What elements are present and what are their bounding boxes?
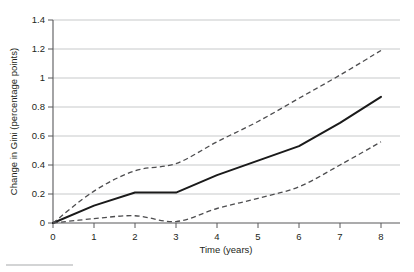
y-tick-label-0.4: 0.4 — [32, 159, 45, 170]
y-tick-label-0: 0 — [40, 217, 45, 228]
chart-svg: 00.20.40.60.811.21.4 012345678 Change in… — [0, 0, 414, 272]
x-tick-label-8: 8 — [378, 231, 383, 242]
x-tick-label-4: 4 — [214, 231, 219, 242]
x-tick-label-5: 5 — [255, 231, 260, 242]
y-tick-label-0.2: 0.2 — [32, 188, 45, 199]
x-axis-tick-labels: 012345678 — [50, 231, 383, 242]
y-tick-label-1.2: 1.2 — [32, 43, 45, 54]
y-axis-tick-labels: 00.20.40.60.811.21.4 — [32, 14, 45, 228]
y-tick-label-1: 1 — [40, 72, 45, 83]
y-tick-label-0.8: 0.8 — [32, 101, 45, 112]
x-tick-label-6: 6 — [296, 231, 301, 242]
x-tick-label-3: 3 — [173, 231, 178, 242]
data-series — [53, 50, 381, 223]
series-line-1 — [53, 50, 381, 223]
x-tick-label-7: 7 — [337, 231, 342, 242]
chart-figure: 00.20.40.60.811.21.4 012345678 Change in… — [0, 0, 414, 272]
x-tick-label-0: 0 — [50, 231, 55, 242]
series-line-2 — [53, 142, 381, 223]
series-line-0 — [53, 97, 381, 223]
y-tick-label-1.4: 1.4 — [32, 14, 45, 25]
x-tick-label-2: 2 — [132, 231, 137, 242]
y-axis-title: Change in Gini (percentage points) — [8, 48, 19, 195]
y-axis-tick-marks — [48, 20, 53, 223]
x-axis-title: Time (years) — [200, 244, 253, 255]
x-axis-tick-marks — [53, 223, 381, 228]
gridlines — [53, 20, 400, 194]
x-tick-label-1: 1 — [91, 231, 96, 242]
y-tick-label-0.6: 0.6 — [32, 130, 45, 141]
